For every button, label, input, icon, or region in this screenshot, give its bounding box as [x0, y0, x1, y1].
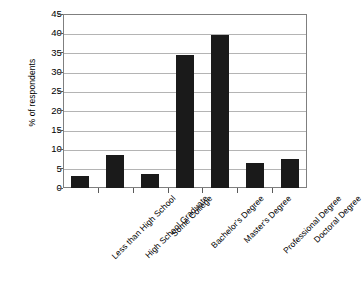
- bar: [246, 163, 264, 188]
- bar-slot: [202, 14, 237, 188]
- bar-slot: [63, 14, 98, 188]
- x-tick-mark: [168, 188, 169, 193]
- bar-slot: [168, 14, 203, 188]
- bar: [71, 176, 89, 188]
- bar-slot: [272, 14, 307, 188]
- bar-slot: [98, 14, 133, 188]
- x-tick-mark: [98, 188, 99, 193]
- bar: [106, 155, 124, 188]
- bar-slot: [133, 14, 168, 188]
- bar: [176, 55, 194, 188]
- bar: [141, 174, 159, 188]
- bar: [281, 159, 299, 188]
- bars-layer: [63, 14, 307, 188]
- bar: [211, 35, 229, 188]
- x-tick-mark: [237, 188, 238, 193]
- x-tick-mark: [272, 188, 273, 193]
- x-tick-mark: [133, 188, 134, 193]
- bar-slot: [237, 14, 272, 188]
